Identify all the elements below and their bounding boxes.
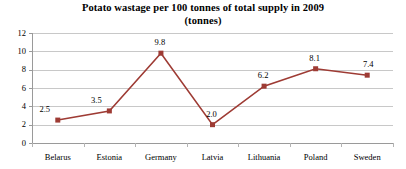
data-label-lithuania: 6.2 [252,71,274,80]
data-label-germany: 9.8 [149,38,171,47]
data-label-sweden: 7.4 [357,60,379,69]
data-label-estonia: 3.5 [85,96,107,105]
data-label-latvia: 2.0 [201,110,223,119]
data-point-marker-latvia [210,122,215,127]
data-point-marker-belarus [55,118,60,123]
data-point-marker-poland [313,66,318,71]
data-label-belarus: 2.5 [34,105,56,114]
data-label-poland: 8.1 [304,54,326,63]
series-line-potato-wastage [0,0,406,169]
data-point-marker-estonia [107,108,112,113]
data-point-marker-sweden [365,73,370,78]
data-point-marker-lithuania [262,84,267,89]
data-point-marker-germany [158,51,163,56]
chart-container: Potato wastage per 100 tonnes of total s… [0,0,406,169]
